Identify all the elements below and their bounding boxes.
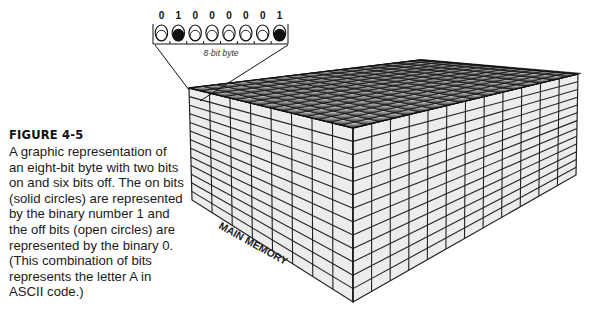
bit-value: 0: [209, 10, 215, 21]
main-memory-cube: [189, 60, 581, 302]
bit-value: 0: [159, 10, 165, 21]
bit-value: 0: [192, 10, 198, 21]
memory-diagram: 01000001 8-bit byte MAIN MEMORY: [0, 0, 593, 316]
bit-value: 1: [277, 10, 283, 21]
bit-value: 0: [226, 10, 232, 21]
bit-value: 1: [176, 10, 182, 21]
byte-label: 8-bit byte: [204, 48, 239, 58]
bit-value: 0: [243, 10, 249, 21]
bit-value: 0: [260, 10, 266, 21]
